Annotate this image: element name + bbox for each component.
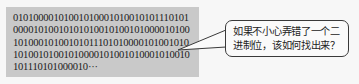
speech-bubble-text: 如果不小心弄错了一个二进制位，该如何找出来？ (233, 25, 346, 52)
binary-line: 10100010100101011101010000101001010 (13, 37, 199, 49)
binary-line: 101110101000010··· (13, 61, 199, 73)
binary-line: 00001010010101010010100101000010100 (13, 24, 199, 36)
binary-line: 10100101001010000101001010001010010 (13, 49, 199, 61)
speech-bubble: 如果不小心弄错了一个二进制位，该如何找出来？ (225, 20, 349, 57)
binary-data-block: 01010000101001010001010010101110101 0000… (6, 7, 199, 77)
binary-line: 01010000101001010001010010101110101 (13, 12, 199, 24)
